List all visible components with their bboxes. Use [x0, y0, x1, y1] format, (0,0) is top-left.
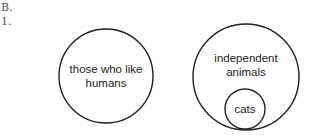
left-circle-line1: those who like — [70, 63, 143, 75]
venn-diagram: those who like humans independent animal… — [0, 0, 312, 137]
right-circle-line2: animals — [226, 66, 266, 78]
inner-circle: cats — [225, 89, 265, 129]
left-circle-line2: humans — [86, 77, 127, 89]
right-circle-line1: independent — [214, 52, 278, 64]
left-circle: those who like humans — [59, 29, 153, 123]
inner-circle-label: cats — [234, 103, 255, 115]
